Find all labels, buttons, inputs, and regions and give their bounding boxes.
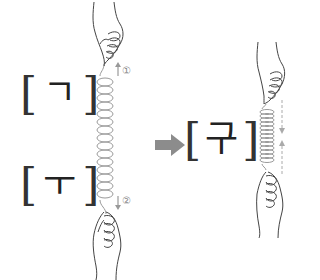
- compress-down-arrow-icon: [278, 100, 286, 134]
- bracket-open: [: [184, 114, 201, 165]
- down-arrow-icon: [114, 196, 122, 210]
- hand-icon: [252, 40, 288, 104]
- compress-up-arrow-icon: [278, 140, 286, 174]
- hand-icon: [88, 0, 128, 68]
- compressed-spring-icon: [256, 104, 280, 170]
- right-arrow-icon: [155, 134, 185, 156]
- hand-icon: [254, 170, 290, 238]
- stretched-spring-icon: [92, 64, 122, 214]
- annotation-step1: ①: [122, 66, 131, 76]
- syllable-gu: 구: [205, 118, 238, 159]
- up-arrow-icon: [114, 62, 122, 76]
- label-gu: [구]: [184, 118, 259, 162]
- hand-icon: [90, 210, 130, 280]
- label-giyeok: [ㄱ]: [20, 72, 99, 116]
- bracket-open: [: [20, 68, 37, 119]
- annotation-step2: ②: [122, 196, 131, 206]
- jamo-u: ㅜ: [43, 163, 76, 204]
- bracket-open: [: [20, 159, 37, 210]
- jamo-giyeok: ㄱ: [43, 72, 76, 113]
- label-u: [ㅜ]: [20, 163, 99, 207]
